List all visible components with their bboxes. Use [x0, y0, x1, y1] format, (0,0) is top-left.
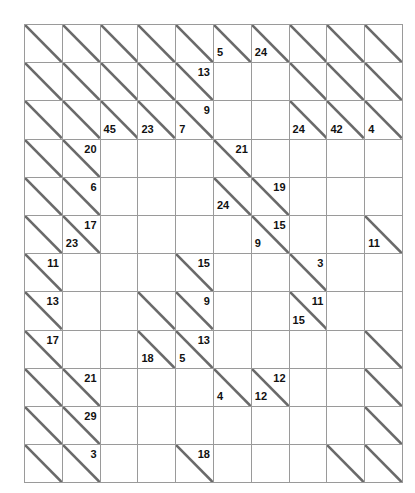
entry-cell[interactable]: [289, 368, 327, 406]
entry-cell[interactable]: [62, 330, 100, 368]
entry-cell[interactable]: [100, 139, 138, 177]
entry-cell[interactable]: [138, 139, 176, 177]
down-clue: 12: [255, 391, 267, 402]
clue-cell: 97: [176, 101, 214, 139]
clue-cell: [327, 25, 365, 63]
entry-cell[interactable]: [327, 368, 365, 406]
entry-cell[interactable]: [213, 215, 251, 253]
clue-cell: 6: [62, 177, 100, 215]
clue-cell: 20: [62, 139, 100, 177]
entry-cell[interactable]: [327, 215, 365, 253]
kakuro-row: 172315911: [25, 215, 403, 253]
entry-cell[interactable]: [100, 368, 138, 406]
across-clue: 11: [312, 296, 324, 307]
clue-cell: 3: [289, 254, 327, 292]
entry-cell[interactable]: [176, 177, 214, 215]
clue-cell: [25, 368, 63, 406]
entry-cell[interactable]: [327, 406, 365, 444]
entry-cell[interactable]: [289, 177, 327, 215]
entry-cell[interactable]: [213, 330, 251, 368]
entry-cell[interactable]: [289, 330, 327, 368]
clue-cell: [365, 25, 403, 63]
entry-cell[interactable]: [100, 406, 138, 444]
entry-cell[interactable]: [251, 445, 289, 483]
entry-cell[interactable]: [138, 445, 176, 483]
entry-cell[interactable]: [138, 254, 176, 292]
diagonal-divider-icon: [25, 63, 62, 100]
entry-cell[interactable]: [100, 445, 138, 483]
entry-cell[interactable]: [365, 292, 403, 330]
kakuro-row: 2021: [25, 139, 403, 177]
clue-cell: [138, 25, 176, 63]
entry-cell[interactable]: [213, 63, 251, 101]
clue-cell: 15: [176, 254, 214, 292]
clue-cell: 1212: [251, 368, 289, 406]
clue-cell: [25, 445, 63, 483]
entry-cell[interactable]: [100, 177, 138, 215]
kakuro-row: 29: [25, 406, 403, 444]
entry-cell[interactable]: [327, 292, 365, 330]
entry-cell[interactable]: [251, 139, 289, 177]
entry-cell[interactable]: [100, 215, 138, 253]
diagonal-divider-icon: [176, 25, 213, 62]
entry-cell[interactable]: [100, 254, 138, 292]
entry-cell[interactable]: [176, 139, 214, 177]
entry-cell[interactable]: [138, 215, 176, 253]
entry-cell[interactable]: [62, 254, 100, 292]
entry-cell[interactable]: [289, 139, 327, 177]
clue-cell: 9: [176, 292, 214, 330]
entry-cell[interactable]: [251, 101, 289, 139]
entry-cell[interactable]: [289, 406, 327, 444]
entry-cell[interactable]: [213, 254, 251, 292]
down-clue: 7: [179, 124, 185, 135]
clue-cell: 159: [251, 215, 289, 253]
diagonal-divider-icon: [25, 369, 62, 406]
entry-cell[interactable]: [251, 292, 289, 330]
entry-cell[interactable]: [251, 63, 289, 101]
entry-cell[interactable]: [138, 368, 176, 406]
diagonal-divider-icon: [63, 101, 100, 138]
clue-cell: 3: [62, 445, 100, 483]
entry-cell[interactable]: [213, 292, 251, 330]
entry-cell[interactable]: [365, 139, 403, 177]
clue-cell: 21: [62, 368, 100, 406]
diagonal-divider-icon: [290, 25, 327, 62]
across-clue: 9: [204, 296, 210, 307]
entry-cell[interactable]: [327, 177, 365, 215]
clue-cell: 23: [138, 101, 176, 139]
entry-cell[interactable]: [365, 177, 403, 215]
kakuro-row: 11153: [25, 254, 403, 292]
entry-cell[interactable]: [176, 368, 214, 406]
entry-cell[interactable]: [327, 254, 365, 292]
entry-cell[interactable]: [289, 215, 327, 253]
entry-cell[interactable]: [327, 139, 365, 177]
entry-cell[interactable]: [213, 445, 251, 483]
entry-cell[interactable]: [62, 292, 100, 330]
entry-cell[interactable]: [176, 215, 214, 253]
entry-cell[interactable]: [213, 101, 251, 139]
entry-cell[interactable]: [213, 406, 251, 444]
kakuro-row: 45239724424: [25, 101, 403, 139]
entry-cell[interactable]: [251, 330, 289, 368]
diagonal-divider-icon: [365, 407, 402, 444]
entry-cell[interactable]: [289, 445, 327, 483]
diagonal-divider-icon: [25, 140, 62, 177]
entry-cell[interactable]: [176, 406, 214, 444]
entry-cell[interactable]: [138, 406, 176, 444]
entry-cell[interactable]: [100, 330, 138, 368]
entry-cell[interactable]: [251, 254, 289, 292]
diagonal-divider-icon: [25, 101, 62, 138]
kakuro-row: 1718135: [25, 330, 403, 368]
entry-cell[interactable]: [327, 330, 365, 368]
entry-cell[interactable]: [100, 292, 138, 330]
entry-cell[interactable]: [365, 254, 403, 292]
diagonal-divider-icon: [25, 445, 62, 482]
down-clue: 18: [141, 353, 153, 364]
clue-cell: 21: [213, 139, 251, 177]
entry-cell[interactable]: [251, 406, 289, 444]
across-clue: 19: [273, 182, 285, 193]
kakuro-row: 318: [25, 445, 403, 483]
entry-cell[interactable]: [138, 177, 176, 215]
across-clue: 13: [47, 296, 59, 307]
kakuro-puzzle: 5241345239724424202162419172315911111531…: [24, 24, 403, 483]
